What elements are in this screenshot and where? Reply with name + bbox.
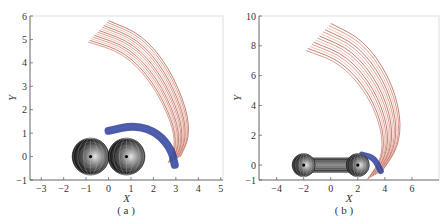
x-tick-label: 0 bbox=[106, 183, 111, 194]
y-tick-label: −1 bbox=[245, 175, 256, 186]
y-tick-label: −1 bbox=[16, 175, 27, 186]
y-tick-label: 2 bbox=[22, 104, 27, 115]
x-tick-label: 5 bbox=[218, 183, 223, 194]
x-tick-label: 0 bbox=[328, 183, 333, 194]
x-tick-label: 4 bbox=[382, 183, 387, 194]
plot-frame bbox=[259, 16, 439, 180]
sphere-center bbox=[302, 163, 305, 166]
panel-caption: ( a ) bbox=[117, 204, 135, 217]
sphere-center bbox=[356, 163, 359, 166]
panel-b: −4−20246−10246810XY( b ) bbox=[231, 11, 439, 218]
y-tick-label: 5 bbox=[22, 34, 27, 45]
y-tick-label: 0 bbox=[22, 151, 27, 162]
y-tick-label: 4 bbox=[22, 57, 27, 68]
x-tick-label: −2 bbox=[58, 183, 69, 194]
y-tick-label: 6 bbox=[22, 11, 27, 22]
sphere-center bbox=[89, 155, 92, 158]
y-tick-label: 3 bbox=[22, 81, 27, 92]
x-tick-label: −2 bbox=[298, 183, 309, 194]
panel-caption: ( b ) bbox=[335, 204, 354, 217]
x-tick-label: 6 bbox=[409, 183, 414, 194]
y-axis-label: Y bbox=[231, 93, 243, 101]
x-tick-label: 2 bbox=[151, 183, 156, 194]
x-tick-label: −4 bbox=[271, 183, 282, 194]
y-tick-label: 10 bbox=[246, 11, 256, 22]
y-tick-label: 8 bbox=[251, 40, 256, 51]
x-tick-label: 2 bbox=[355, 183, 360, 194]
panel-a: −3−2−1012345−10123456XY( a ) bbox=[6, 11, 223, 218]
x-tick-label: 3 bbox=[173, 183, 178, 194]
x-tick-label: −3 bbox=[36, 183, 47, 194]
y-tick-label: 1 bbox=[22, 128, 27, 139]
x-axis-label: X bbox=[122, 192, 131, 204]
y-tick-label: 2 bbox=[251, 130, 256, 141]
y-tick-label: 4 bbox=[251, 100, 256, 111]
x-tick-label: 4 bbox=[196, 183, 201, 194]
x-axis-label: X bbox=[345, 192, 354, 204]
x-tick-label: −1 bbox=[81, 183, 92, 194]
y-axis-label: Y bbox=[6, 93, 18, 101]
sphere-center bbox=[125, 155, 128, 158]
y-tick-label: 6 bbox=[251, 70, 256, 81]
figure: −3−2−1012345−10123456XY( a ) −4−20246−10… bbox=[0, 0, 446, 224]
y-tick-label: 0 bbox=[251, 160, 256, 171]
